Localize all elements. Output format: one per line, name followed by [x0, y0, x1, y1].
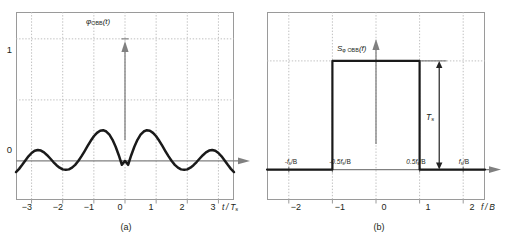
- panel-a-xtick-2: −1: [79, 202, 99, 212]
- panel-b-xtick-4: 2: [462, 202, 482, 212]
- panel-b-freq-tick-neg-fs: -fs/B: [269, 158, 313, 166]
- panel-a-curve-label-sub: OBB: [91, 20, 102, 26]
- panel-b-xtick-0: −2: [286, 202, 306, 212]
- panel-b-xtick-1: −1: [330, 202, 350, 212]
- panel-a-xtick-1: −2: [48, 202, 68, 212]
- panel-a-curve-label-arg: (t): [103, 17, 111, 26]
- panel-b-curve-label: Sφ OBB(f): [337, 44, 366, 53]
- panel-b: Sφ OBB(f) -fs/B -0.5fs/B 0.5fs/B fs/B Ts…: [253, 0, 505, 245]
- panel-b-amplitude-label-sub: s: [431, 116, 434, 122]
- panel-a-xtick-0: −3: [17, 202, 37, 212]
- axis-vertical-arrowhead: [372, 39, 379, 50]
- figure-sinc-and-rect-spectrum: φOBB(t) 1 0 −3 −2 −1 0 1 2 3 t / Ts (a) …: [0, 0, 505, 245]
- panel-a-xtick-3: 0: [110, 202, 130, 212]
- panel-b-freq-tick-neg-half-fs-main: -0.5f: [329, 158, 342, 165]
- panel-b-curve-label-arg: (f): [359, 44, 367, 53]
- panel-b-freq-tick-half-fs-suffix: /B: [420, 158, 426, 165]
- panel-b-amplitude-label: Ts: [426, 112, 434, 122]
- axis-horizontal-arrowhead: [238, 158, 250, 165]
- panel-b-freq-tick-half-fs: 0.5fs/B: [389, 158, 443, 166]
- panel-b-freq-tick-neg-half-fs-suffix: /B: [345, 158, 351, 165]
- panel-a-caption: (a): [0, 222, 252, 232]
- panel-b-freq-tick-neg-half-fs: -0.5fs/B: [311, 158, 369, 166]
- panel-b-freq-tick-fs: fs/B: [444, 158, 484, 166]
- panel-b-freq-tick-neg-fs-suffix: /B: [291, 158, 297, 165]
- panel-b-curve-label-sub: φ OBB: [342, 47, 359, 53]
- panel-a-ytick-0: 0: [0, 144, 12, 155]
- panel-a-xaxis-label: t / Ts: [222, 202, 238, 212]
- panel-b-xtick-2: 0: [374, 202, 394, 212]
- panel-a-xtick-6: 3: [203, 202, 223, 212]
- panel-b-caption: (b): [253, 222, 505, 232]
- panel-b-freq-tick-fs-suffix: /B: [463, 158, 469, 165]
- panel-b-xaxis-label: f / B: [481, 202, 495, 212]
- amplitude-arrowhead-up: [436, 61, 442, 68]
- panel-a-xtick-5: 2: [172, 202, 192, 212]
- panel-a-xaxis-den-sub: s: [235, 206, 238, 212]
- panel-a: φOBB(t) 1 0 −3 −2 −1 0 1 2 3 t / Ts (a): [0, 0, 252, 245]
- axis-vertical-arrowhead: [121, 41, 128, 52]
- panel-a-ytick-1: 1: [0, 44, 12, 55]
- panel-a-xtick-4: 1: [141, 202, 161, 212]
- axis-horizontal-arrowhead: [489, 166, 501, 173]
- panel-b-xaxis-den: B: [489, 202, 495, 212]
- panel-b-freq-tick-half-fs-main: 0.5f: [406, 158, 417, 165]
- panel-a-curve-label: φOBB(t): [86, 17, 110, 26]
- panel-b-xtick-3: 1: [418, 202, 438, 212]
